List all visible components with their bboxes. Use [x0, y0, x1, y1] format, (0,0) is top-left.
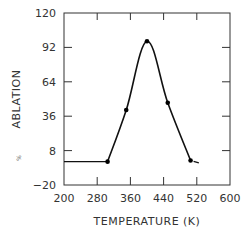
y-tick-labels: −208366492120	[33, 7, 56, 192]
y-tick-label: 120	[35, 7, 56, 20]
plot-frame	[64, 13, 230, 185]
x-tick-label: 600	[220, 192, 241, 205]
x-tick-labels: 200280360440520600	[54, 192, 241, 205]
data-point	[165, 100, 170, 105]
data-point	[145, 39, 150, 44]
ablation-chart: 200280360440520600 −208366492120 TEMPERA…	[0, 0, 249, 240]
y-axis-title: ABLATION	[10, 70, 23, 129]
x-tick-label: 280	[87, 192, 108, 205]
data-point	[105, 159, 110, 164]
y-tick-label: 64	[42, 76, 56, 89]
y-axis-title-prefix: %	[15, 155, 22, 161]
series-ablation	[64, 39, 199, 164]
tail-segment	[194, 161, 199, 162]
x-tick-label: 360	[120, 192, 141, 205]
x-tick-label: 520	[186, 192, 207, 205]
y-tick-label: 92	[42, 41, 56, 54]
x-axis-title: TEMPERATURE (K)	[93, 215, 201, 228]
y-ticks	[64, 47, 230, 150]
series-line	[108, 41, 191, 161]
y-tick-label: −20	[33, 179, 56, 192]
data-point	[124, 108, 129, 113]
y-tick-label: 36	[42, 110, 56, 123]
x-tick-label: 200	[54, 192, 75, 205]
y-tick-label: 8	[49, 145, 56, 158]
x-ticks	[97, 13, 197, 185]
data-point	[188, 158, 193, 163]
x-tick-label: 440	[153, 192, 174, 205]
